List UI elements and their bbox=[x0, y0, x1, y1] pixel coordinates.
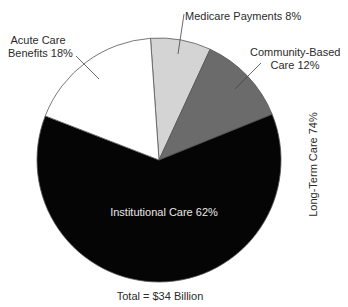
label-acute-line1: Acute Care bbox=[8, 34, 68, 47]
label-community-based-care: Community-Based Care 12% bbox=[250, 46, 340, 72]
label-acute-line2: Benefits 18% bbox=[8, 47, 68, 60]
pie-slices bbox=[37, 38, 281, 282]
label-acute-care-benefits: Acute Care Benefits 18% bbox=[8, 34, 68, 60]
label-community-line2: Care 12% bbox=[250, 59, 340, 72]
chart-total-caption: Total = $34 Billion bbox=[100, 290, 220, 303]
label-institutional-care: Institutional Care 62% bbox=[74, 206, 254, 219]
label-community-line1: Community-Based bbox=[250, 46, 340, 59]
label-long-term-care: Long-Term Care 74% bbox=[307, 110, 320, 220]
label-medicare-payments: Medicare Payments 8% bbox=[185, 10, 301, 23]
